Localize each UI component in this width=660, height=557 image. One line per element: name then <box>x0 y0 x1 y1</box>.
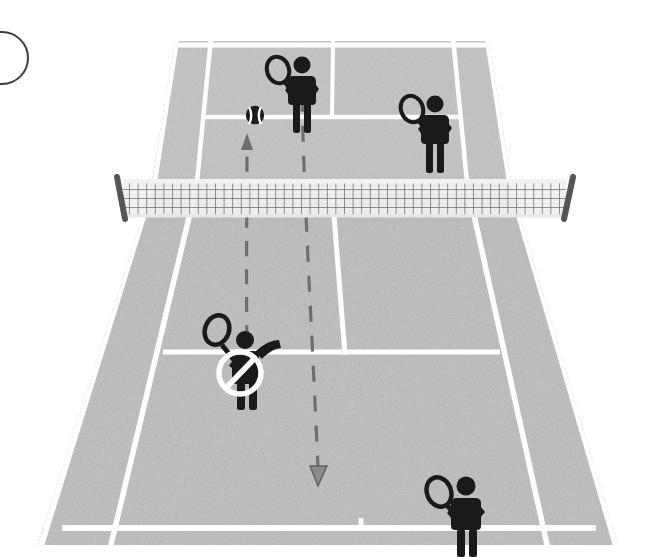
diagram-canvas <box>0 0 660 557</box>
player-leg-right <box>304 103 311 133</box>
player-leg-right <box>437 142 444 173</box>
player-head <box>457 477 476 496</box>
net-mesh <box>123 182 566 216</box>
player-leg-left <box>293 103 300 133</box>
player-head <box>236 331 254 349</box>
step-number-circle-outline <box>0 32 28 84</box>
tennis-net <box>117 177 573 219</box>
net-top-band <box>123 179 566 184</box>
tennis-ball <box>246 106 264 124</box>
player-leg-left <box>426 142 433 173</box>
player-head <box>294 57 311 74</box>
step-number-circle <box>0 32 28 84</box>
player-leg-left <box>457 529 465 557</box>
net-bottom-band <box>123 214 566 218</box>
player-leg-right <box>469 529 477 557</box>
line-far-center-service-line <box>332 44 333 119</box>
tennis-court-diagram <box>0 0 660 557</box>
player-head <box>427 96 444 113</box>
